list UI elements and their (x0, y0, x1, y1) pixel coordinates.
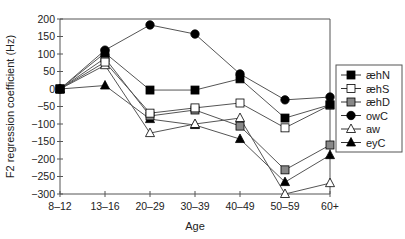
x-tick-label: 50–59 (270, 200, 299, 212)
legend-label-owc: owC (366, 110, 388, 122)
legend-label-hs: æhS (366, 83, 389, 95)
x-axis-title: Age (185, 220, 205, 232)
legend-marker-hn (347, 71, 355, 79)
data-point-owc (146, 21, 154, 29)
data-point-hs (236, 99, 244, 107)
y-tick-label: −250 (31, 170, 55, 182)
data-point-hn (326, 101, 334, 109)
data-point-hd (236, 122, 244, 130)
x-tick-label: 30–39 (180, 200, 209, 212)
series-markers (56, 21, 335, 198)
data-point-hs (281, 124, 289, 132)
legend-label-eyc: eyC (366, 137, 386, 149)
legend-label-hn: æhN (366, 69, 390, 81)
y-tick-label: −300 (31, 188, 55, 200)
axes: 200150100500−50−100−150−200−250−3008–121… (31, 13, 339, 213)
x-tick-label: 8–12 (48, 200, 72, 212)
x-tick-label: 13–16 (90, 200, 119, 212)
data-point-hn (146, 86, 154, 94)
data-point-hs (191, 104, 199, 112)
data-point-hd (326, 141, 334, 149)
data-point-owc (326, 93, 334, 101)
y-axis-title: F2 regression coefficient (Hz) (4, 35, 16, 178)
y-tick-label: 0 (49, 83, 55, 95)
data-point-eyc (101, 81, 110, 90)
data-point-hn (56, 85, 64, 93)
series-line-aw (60, 65, 330, 194)
x-tick-label: 20–29 (135, 200, 164, 212)
data-point-owc (191, 30, 199, 38)
y-tick-label: 100 (37, 48, 55, 60)
legend-marker-hd (347, 98, 355, 106)
data-point-owc (281, 96, 289, 104)
data-point-hd (281, 166, 289, 174)
legend-marker-owc (347, 111, 355, 119)
data-point-aw (236, 113, 245, 122)
data-point-hn (236, 75, 244, 83)
data-point-hs (101, 58, 109, 66)
data-point-hn (101, 49, 109, 57)
y-tick-label: 150 (37, 30, 55, 42)
y-tick-label: −150 (31, 135, 55, 147)
x-tick-label: 40–49 (225, 200, 254, 212)
data-point-eyc (326, 150, 335, 159)
legend-label-aw: aw (366, 123, 380, 135)
data-point-hn (281, 114, 289, 122)
data-point-eyc (281, 177, 290, 186)
data-point-aw (326, 178, 335, 187)
y-tick-label: −200 (31, 153, 55, 165)
series-line-hs (60, 62, 330, 128)
y-tick-label: 50 (43, 65, 55, 77)
line-chart: 200150100500−50−100−150−200−250−3008–121… (0, 0, 405, 239)
data-point-hs (146, 109, 154, 117)
y-tick-label: −50 (37, 100, 55, 112)
y-tick-label: −100 (31, 118, 55, 130)
x-tick-label: 60+ (321, 200, 339, 212)
legend-marker-hs (347, 85, 355, 93)
y-tick-label: 200 (37, 13, 55, 25)
data-point-hn (191, 86, 199, 94)
legend-label-hd: æhD (366, 96, 390, 108)
legend: æhNæhSæhDowCaweyC (336, 65, 402, 152)
